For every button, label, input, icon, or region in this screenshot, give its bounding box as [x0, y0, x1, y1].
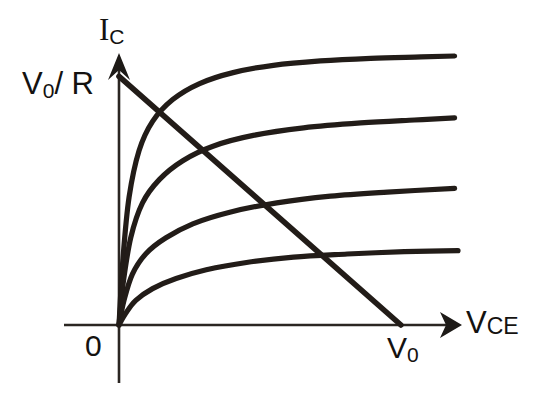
x-axis-label-base: V: [466, 305, 487, 340]
x-axis-label-subscript: CE: [487, 313, 519, 339]
y-intercept-label: V0/ R: [22, 68, 94, 99]
figure-root: IC V0/ R 0 V0 VCE: [0, 0, 548, 403]
y-axis-label-base: I: [99, 12, 109, 47]
y-intercept-subscript: 0: [43, 79, 55, 102]
x-intercept-label: V0: [387, 333, 419, 363]
origin-label: 0: [85, 331, 102, 361]
y-intercept-base: V: [22, 66, 43, 101]
x-intercept-base: V: [387, 331, 407, 364]
x-axis-label: VCE: [466, 307, 519, 338]
dc-load-line: [119, 76, 401, 325]
x-intercept-subscript: 0: [407, 343, 419, 366]
characteristics-plot: [0, 0, 548, 403]
characteristic-curve-ib1: [119, 251, 458, 325]
y-axis-label-subscript: C: [109, 25, 124, 48]
y-axis-label: IC: [99, 14, 125, 45]
y-intercept-separator: / R: [54, 66, 94, 101]
